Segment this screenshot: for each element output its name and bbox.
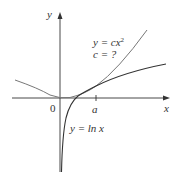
parabola-constant-label: c = ? [93,48,117,60]
parabola-label: y = cx2 [92,36,125,48]
log-label: y = ln x [69,122,104,134]
y-axis-arrow-icon [58,12,63,19]
log-curve [62,64,167,172]
y-axis-label: y [46,8,52,20]
parabola-curve [15,30,147,98]
parabola-equation: y = cx [92,36,121,48]
parabola-exponent: 2 [121,36,125,44]
x-axis-label: x [163,102,169,114]
x-axis-arrow-icon [163,96,170,101]
tick-a-label: a [92,103,98,115]
origin-label: 0 [50,102,56,114]
figure: y x 0 a y = cx2 c = ? y = ln x [0,0,184,181]
